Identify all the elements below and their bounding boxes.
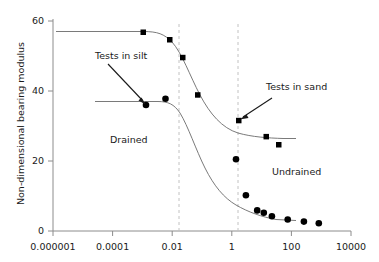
silt-data-markers xyxy=(143,95,322,226)
sand-data-markers xyxy=(141,30,282,148)
data-point xyxy=(269,213,276,220)
y-axis-title: Non-dimensional bearing modulus xyxy=(15,39,26,209)
annotation-tests-in-sand: Tests in sand xyxy=(266,81,327,92)
silt-trend-curve xyxy=(158,102,296,221)
data-point xyxy=(180,55,186,61)
y-tick-label-60: 60 xyxy=(20,15,44,26)
data-point xyxy=(261,210,268,217)
x-tick-label-1: 1 xyxy=(229,241,235,252)
chart-container: Non-dimensional bearing modulus 60 40 20… xyxy=(0,0,379,262)
data-point xyxy=(162,95,169,102)
y-tick-label-20: 20 xyxy=(20,155,44,166)
data-point xyxy=(284,216,291,223)
tests-in-sand-arrow xyxy=(240,98,273,120)
x-tick-label-0p0001: 0.0001 xyxy=(96,241,129,252)
data-point xyxy=(141,30,147,36)
data-point xyxy=(233,156,240,163)
data-point xyxy=(301,218,308,225)
annotation-drained: Drained xyxy=(110,134,148,145)
x-tick-label-100: 100 xyxy=(282,241,300,252)
tests-in-silt-arrow xyxy=(108,64,146,105)
x-tick-label-10000: 10000 xyxy=(336,241,366,252)
y-axis-ticks xyxy=(48,21,53,231)
x-tick-label-0p000001: 0.000001 xyxy=(30,241,75,252)
data-point xyxy=(276,142,282,148)
x-tick-label-0p01: 0.01 xyxy=(162,241,183,252)
data-point xyxy=(167,37,173,43)
data-point xyxy=(195,92,201,98)
data-point xyxy=(264,134,270,140)
data-point xyxy=(254,207,261,214)
annotation-tests-in-silt: Tests in silt xyxy=(95,50,147,61)
data-point xyxy=(236,118,242,124)
chart-plot-area xyxy=(0,0,379,262)
y-tick-label-0: 0 xyxy=(20,225,44,236)
y-tick-label-40: 40 xyxy=(20,85,44,96)
data-point xyxy=(243,192,250,199)
data-point xyxy=(316,220,323,227)
x-axis-ticks xyxy=(53,231,351,236)
annotation-undrained: Undrained xyxy=(272,166,321,177)
